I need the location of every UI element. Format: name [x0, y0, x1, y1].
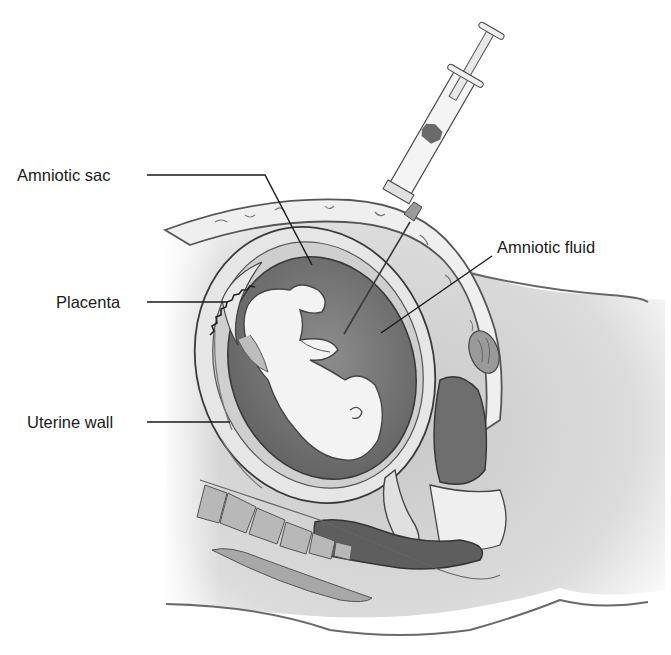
- amniocentesis-illustration: [0, 0, 671, 655]
- label-placenta: Placenta: [56, 294, 120, 311]
- label-amniotic-sac: Amniotic sac: [17, 167, 111, 184]
- label-uterine-wall: Uterine wall: [27, 414, 113, 431]
- label-amniotic-fluid: Amniotic fluid: [497, 239, 595, 256]
